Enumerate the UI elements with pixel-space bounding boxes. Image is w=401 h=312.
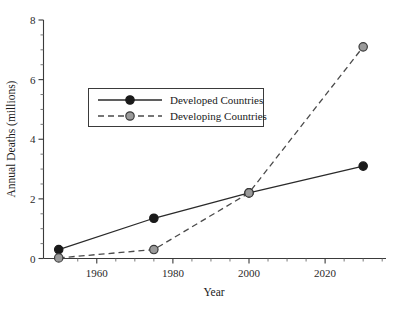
y-axis-ticks	[39, 20, 44, 259]
series-line	[59, 166, 363, 249]
y-tick-label: 6	[30, 74, 36, 86]
y-tick-label: 8	[30, 14, 36, 26]
series-marker	[359, 162, 367, 170]
x-tick-label: 2000	[238, 267, 261, 279]
legend-label-developed: Developed Countries	[170, 94, 263, 106]
y-tick-label: 0	[30, 253, 36, 265]
x-tick-label: 2020	[314, 267, 337, 279]
y-axis-title: Annual Deaths (millions)	[5, 80, 18, 197]
series-marker	[150, 214, 158, 222]
data-series-layer	[55, 43, 368, 262]
series-marker	[150, 245, 158, 253]
x-axis-title: Year	[203, 286, 224, 298]
y-axis-tick-labels: 02468	[30, 14, 36, 265]
chart-legend: Developed Countries Developing Countries	[89, 89, 267, 127]
y-tick-label: 2	[30, 193, 36, 205]
series-marker	[359, 43, 367, 51]
legend-label-developing: Developing Countries	[170, 110, 267, 122]
data-series	[55, 162, 368, 254]
series-line	[59, 47, 363, 258]
x-tick-label: 1960	[86, 267, 109, 279]
chart-figure: 02468 1960198020002020 Developed Countri…	[0, 0, 401, 312]
legend-sample-marker	[126, 96, 134, 104]
y-tick-label: 4	[30, 133, 36, 145]
series-marker	[245, 189, 253, 197]
legend-sample-marker	[126, 112, 134, 120]
data-series	[55, 43, 368, 262]
x-axis-ticks	[59, 259, 382, 264]
x-tick-label: 1980	[162, 267, 185, 279]
line-chart-canvas: 02468 1960198020002020 Developed Countri…	[0, 0, 401, 312]
x-axis-tick-labels: 1960198020002020	[86, 267, 337, 279]
series-marker	[55, 254, 63, 262]
series-marker	[55, 245, 63, 253]
